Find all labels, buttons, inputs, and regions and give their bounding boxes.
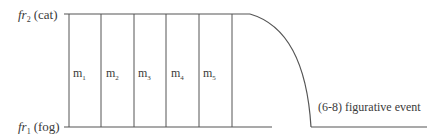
segment-label-m3: m3 [138, 66, 151, 82]
segment-label-m5: m5 [203, 66, 216, 82]
top-frame-label: fr2(cat) [18, 7, 57, 24]
segment-label-m4: m4 [171, 66, 184, 82]
event-label: (6-8) figurative event [318, 100, 421, 114]
transition-curve [250, 14, 311, 127]
segment-label-m2: m2 [106, 66, 119, 82]
segment-label-m1: m1 [73, 66, 86, 82]
bottom-frame-label: fr1(fog) [18, 119, 60, 136]
frame-transition-diagram: fr2(cat) fr1(fog) m1 m2 m3 m4 m5 (6-8) f… [0, 0, 446, 140]
